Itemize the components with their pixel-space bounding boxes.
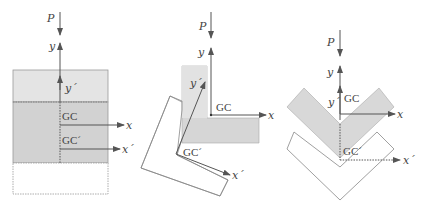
y-axis-label: y	[48, 40, 56, 53]
gc-prime-label: GC´	[183, 146, 202, 158]
gc-prime-label: GC´	[343, 145, 362, 157]
y-axis-label: y	[197, 46, 205, 59]
load-label: P	[46, 12, 55, 25]
x-axis-label: x	[126, 119, 133, 132]
load-label: P	[198, 20, 207, 33]
x-prime-label: x´	[403, 154, 415, 167]
x-axis-label: x	[397, 108, 404, 121]
gc-label: GC	[344, 92, 359, 104]
y-prime-label: y´	[189, 77, 202, 90]
panel-angle-section: P y x GC y´ x´ GC´	[141, 12, 275, 196]
panel-rectangular-section: P y y´ GC x GC´ x´	[13, 12, 134, 194]
y-axis-label: y	[326, 66, 334, 79]
gc-label: GC	[62, 110, 77, 122]
x-prime-label: x´	[232, 169, 244, 182]
x-prime-label: x´	[122, 143, 134, 156]
x-axis-label: x	[268, 109, 275, 122]
gc-label: GC	[216, 101, 231, 113]
y-prime-label: y´	[64, 82, 77, 95]
gc-prime-label: GC´	[62, 134, 81, 146]
diagram-canvas: P y y´ GC x GC´ x´ P y x GC y´ x´ GC´	[0, 0, 429, 213]
section-removed-outline	[13, 163, 108, 194]
load-label: P	[326, 36, 335, 49]
y-prime-label: y´	[327, 96, 340, 109]
panel-v-section: P y y´ GC x GC´ x´	[287, 30, 415, 200]
